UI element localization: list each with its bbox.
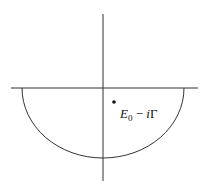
- pole-label-gamma: Γ: [150, 106, 158, 121]
- pole-point: [112, 100, 116, 104]
- pole-label-symbol: E: [120, 106, 128, 121]
- pole-label-operator: −: [132, 106, 146, 121]
- contour-diagram: [0, 0, 205, 188]
- pole-label: E0 − iΓ: [120, 107, 157, 123]
